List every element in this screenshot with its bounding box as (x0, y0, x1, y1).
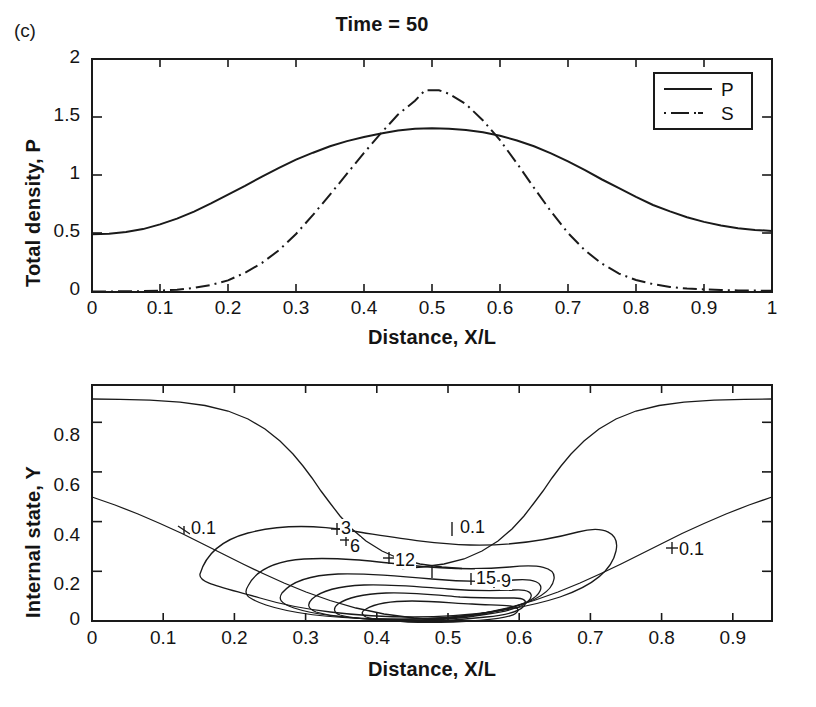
top-ytick-1p5: 1.5 (20, 104, 80, 126)
top-ytick-0p5: 0.5 (20, 220, 80, 242)
top-xtick-0p1: 0.1 (130, 297, 190, 319)
top-xtick-0p5: 0.5 (402, 297, 462, 319)
contour-label-3: 3 (340, 519, 352, 537)
bottom-ytick-0p8: 0.8 (20, 424, 80, 446)
top-ytick-2: 2 (20, 46, 80, 68)
contour-label-12: 12 (394, 551, 416, 569)
contour-outer-left-upper (92, 399, 462, 569)
bottom-xtick-0p9: 0.9 (703, 627, 763, 649)
bottom-xtick-0p5: 0.5 (418, 627, 478, 649)
top-xtick-0p8: 0.8 (606, 297, 666, 319)
bottom-xtick-0p7: 0.7 (560, 627, 620, 649)
top-chart-legend[interactable]: P S (653, 72, 753, 130)
top-ytick-1: 1 (20, 162, 80, 184)
contour-outer-right-upper (402, 399, 772, 569)
contour-label-15: 15 (475, 569, 497, 587)
bottom-xtick-0p4: 0.4 (347, 627, 407, 649)
series-P-line (92, 128, 772, 234)
legend-row-S[interactable]: S (655, 101, 751, 125)
legend-label-P: P (721, 80, 734, 99)
top-x-axis-label: Distance, X/L (332, 326, 532, 349)
contour-label-0p1-mid: 0.1 (459, 518, 486, 536)
legend-swatch-solid-icon (662, 82, 714, 96)
contour-outer-right-lower (422, 497, 772, 621)
figure-panel-c: (c) Time = 50 Total density, P (0, 0, 816, 707)
bottom-xtick-0p3: 0.3 (276, 627, 336, 649)
legend-swatch-dashdot-icon (662, 106, 714, 120)
top-xtick-0p7: 0.7 (538, 297, 598, 319)
bottom-xtick-0: 0 (62, 627, 122, 649)
top-chart-svg (0, 0, 816, 300)
top-xtick-0p6: 0.6 (470, 297, 530, 319)
top-xtick-1: 1 (742, 297, 802, 319)
bottom-axis-ticks (92, 385, 772, 621)
contour-label-6: 6 (349, 537, 361, 555)
contour-label-9: 9 (500, 572, 512, 590)
bottom-x-axis-label: Distance, X/L (332, 658, 532, 681)
bottom-xtick-0p2: 0.2 (204, 627, 264, 649)
legend-row-P[interactable]: P (655, 77, 751, 101)
top-line-chart (0, 0, 816, 300)
bottom-xtick-0p1: 0.1 (133, 627, 193, 649)
contour-label-0p1-right: 0.1 (678, 540, 705, 558)
bottom-ytick-0p2: 0.2 (20, 573, 80, 595)
bottom-plot-frame (92, 385, 772, 621)
bottom-chart-svg (0, 370, 816, 640)
bottom-ytick-0p6: 0.6 (20, 474, 80, 496)
top-xtick-0p9: 0.9 (674, 297, 734, 319)
top-xtick-0p4: 0.4 (334, 297, 394, 319)
top-xtick-0p3: 0.3 (266, 297, 326, 319)
bottom-ytick-0p4: 0.4 (20, 524, 80, 546)
bottom-xtick-0p6: 0.6 (489, 627, 549, 649)
bottom-xtick-0p8: 0.8 (632, 627, 692, 649)
bottom-contour-chart (0, 370, 816, 640)
contour-label-0p1-left: 0.1 (190, 519, 217, 537)
legend-label-S: S (721, 104, 734, 123)
top-xtick-0: 0 (62, 297, 122, 319)
top-xtick-0p2: 0.2 (198, 297, 258, 319)
